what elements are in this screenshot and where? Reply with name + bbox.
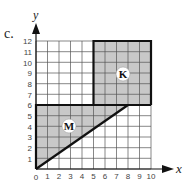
- part-label: c.: [4, 26, 14, 41]
- svg-text:2: 2: [28, 144, 33, 153]
- svg-text:4: 4: [28, 123, 33, 132]
- svg-text:9: 9: [28, 69, 33, 78]
- svg-text:K: K: [119, 68, 128, 80]
- svg-text:4: 4: [80, 172, 85, 181]
- svg-text:7: 7: [28, 91, 33, 100]
- svg-text:5: 5: [91, 172, 96, 181]
- y-axis-label: y: [32, 8, 39, 22]
- svg-text:M: M: [64, 120, 75, 132]
- svg-text:12: 12: [23, 37, 32, 46]
- svg-text:1: 1: [45, 172, 50, 181]
- x-tick-labels: 0 1 2 3 4 5 6 7 8 9 10: [34, 172, 156, 182]
- svg-text:11: 11: [24, 48, 33, 57]
- coordinate-grid-figure: c. y x: [0, 0, 189, 185]
- svg-text:0: 0: [34, 173, 39, 182]
- region-label-m: M: [62, 119, 76, 133]
- svg-text:1: 1: [28, 155, 33, 164]
- svg-text:3: 3: [28, 133, 33, 142]
- y-tick-labels: 1 2 3 4 5 6 7 8 9 10 11 12: [23, 37, 32, 163]
- x-axis-arrow-icon: [162, 165, 174, 173]
- svg-text:6: 6: [103, 172, 108, 181]
- svg-text:2: 2: [57, 172, 62, 181]
- x-axis-label: x: [175, 161, 182, 176]
- svg-text:9: 9: [137, 172, 142, 181]
- svg-text:3: 3: [68, 172, 73, 181]
- svg-text:7: 7: [114, 172, 119, 181]
- svg-text:5: 5: [28, 112, 33, 121]
- svg-text:10: 10: [147, 172, 156, 181]
- svg-text:8: 8: [28, 80, 33, 89]
- svg-text:10: 10: [23, 59, 32, 68]
- svg-text:8: 8: [126, 172, 131, 181]
- svg-text:6: 6: [28, 101, 33, 110]
- y-axis-arrow-icon: [32, 23, 40, 34]
- region-label-k: K: [116, 67, 130, 81]
